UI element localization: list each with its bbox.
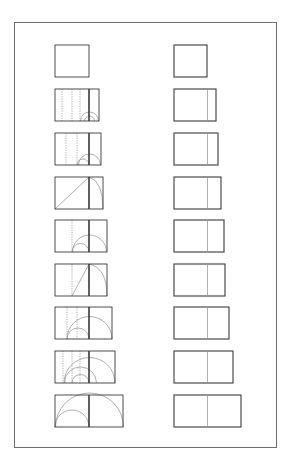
- result-rectangle: [174, 89, 216, 121]
- result-rectangle-row-9: [174, 395, 241, 427]
- diagonal-guide: [72, 264, 89, 296]
- quarter-arc-guide: [89, 177, 103, 209]
- arc-guide: [72, 244, 89, 253]
- proportion-diagram: [0, 0, 291, 454]
- construction-figure-row-9: [55, 393, 124, 427]
- result-rectangle-row-7: [174, 307, 229, 339]
- result-rectangle: [174, 307, 229, 339]
- result-column: [174, 45, 241, 427]
- arc-guide: [67, 328, 89, 339]
- result-rectangle-row-3: [174, 133, 218, 165]
- construction-figure-row-1: [55, 45, 89, 77]
- arc-guide: [72, 375, 89, 384]
- arc-guide: [55, 410, 89, 427]
- construction-rectangle: [55, 177, 103, 209]
- result-rectangle-row-4: [174, 177, 221, 209]
- arc-guide: [65, 367, 97, 383]
- result-rectangle-row-8: [174, 351, 233, 383]
- result-rectangle-row-1: [174, 45, 207, 77]
- result-rectangle: [174, 220, 224, 252]
- construction-figure-row-5: [55, 220, 107, 252]
- construction-figure-row-4: [55, 177, 103, 209]
- construction-figure-row-2: [55, 89, 99, 121]
- result-rectangle-row-5: [174, 220, 224, 252]
- construction-rectangle: [55, 307, 112, 339]
- result-rectangle: [174, 264, 225, 296]
- construction-rectangle: [55, 89, 99, 121]
- result-rectangle-row-6: [174, 264, 225, 296]
- construction-rectangle: [55, 264, 107, 296]
- construction-figure-row-3: [55, 133, 101, 165]
- construction-rectangle: [55, 133, 101, 165]
- result-rectangle: [174, 45, 207, 77]
- construction-figure-row-7: [55, 307, 112, 339]
- construction-rectangle: [55, 220, 107, 252]
- construction-figure-row-6: [55, 264, 107, 296]
- result-rectangle: [174, 133, 218, 165]
- construction-figure-row-8: [55, 351, 115, 383]
- construction-column: [55, 45, 124, 427]
- result-rectangle: [174, 177, 221, 209]
- result-rectangle: [174, 351, 233, 383]
- quarter-arc-guide: [89, 264, 107, 296]
- result-rectangle-row-2: [174, 89, 216, 121]
- construction-rectangle: [55, 351, 115, 383]
- construction-rectangle: [55, 45, 89, 77]
- diagonal-guide: [55, 177, 89, 209]
